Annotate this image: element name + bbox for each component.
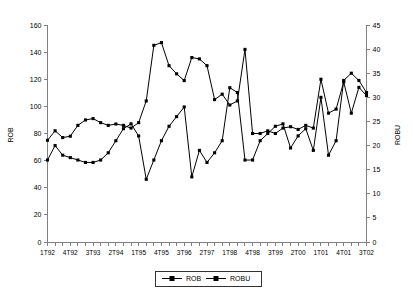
x-tick-label: 4T01 [336,249,351,256]
data-point-rob [84,118,87,121]
x-tick-label: 1T92 [40,249,55,256]
data-point-rob [297,128,300,131]
data-point-robu [266,132,269,135]
data-point-robu [160,139,163,142]
right-tick-label: 10 [373,190,381,197]
series-group [46,41,368,181]
right-axis-tick-group: 051015202530354045 [367,22,381,246]
data-point-rob [304,124,307,127]
data-point-robu [205,161,208,164]
data-point-rob [145,99,148,102]
data-point-robu [236,91,239,94]
data-point-robu [175,115,178,118]
left-tick-label: 140 [30,49,42,56]
data-point-rob [259,132,262,135]
data-point-rob [190,56,193,59]
data-point-robu [69,156,72,159]
left-tick-label: 60 [34,157,42,164]
left-tick-label: 40 [34,184,42,191]
data-point-robu [274,125,277,128]
data-point-robu [114,139,117,142]
data-point-robu [54,144,57,147]
right-tick-label: 20 [373,142,381,149]
data-point-robu [243,158,246,161]
data-point-rob [76,124,79,127]
data-point-rob [99,121,102,124]
data-point-robu [304,127,307,130]
data-point-robu [327,154,330,157]
data-point-rob [357,86,360,89]
data-point-rob [289,125,292,128]
data-point-rob [160,41,163,44]
data-point-robu [190,175,193,178]
right-tick-label: 40 [373,46,381,53]
legend-marker-robu [214,276,219,281]
series-line-rob [48,43,367,141]
data-point-rob [350,112,353,115]
left-axis-title: ROB [7,127,14,143]
data-point-robu [213,151,216,154]
x-tick-label: 4T98 [245,249,260,256]
data-point-rob [213,98,216,101]
x-axis-tick-group: 1T924T923T932T941T954T953T962T971T984T98… [40,242,374,256]
data-point-rob [46,139,49,142]
right-tick-label: 45 [373,22,381,29]
data-point-rob [183,79,186,82]
data-point-rob [69,135,72,138]
data-point-rob [152,44,155,47]
x-tick-label: 3T93 [86,249,101,256]
data-point-robu [335,139,338,142]
data-point-robu [84,161,87,164]
data-point-robu [251,158,254,161]
data-point-rob [228,103,231,106]
data-point-robu [228,86,231,89]
data-point-robu [350,72,353,75]
data-point-rob [137,121,140,124]
data-point-rob [167,64,170,67]
data-point-rob [198,57,201,60]
data-point-rob [221,93,224,96]
data-point-rob [130,127,133,130]
data-point-rob [205,64,208,67]
legend-label-robu: ROBU [230,275,250,282]
right-axis-title: ROBU [394,125,401,145]
left-tick-label: 20 [34,211,42,218]
data-point-robu [289,146,292,149]
data-point-rob [251,132,254,135]
data-point-robu [357,79,360,82]
x-tick-label: 2T97 [200,249,215,256]
data-point-rob [243,48,246,51]
left-tick-label: 0 [38,239,42,246]
right-tick-label: 35 [373,70,381,77]
right-tick-label: 30 [373,94,381,101]
left-tick-label: 120 [30,76,42,83]
legend-label-rob: ROB [186,275,202,282]
right-tick-label: 25 [373,118,381,125]
data-point-rob [61,136,64,139]
data-point-rob [107,124,110,127]
right-tick-label: 0 [373,239,377,246]
legend-marker-rob [170,276,175,281]
data-point-rob [114,122,117,125]
data-point-robu [61,154,64,157]
data-point-rob [335,108,338,111]
x-tick-label: 3T96 [177,249,192,256]
x-tick-label: 2T00 [291,249,306,256]
data-point-robu [312,149,315,152]
x-tick-label: 4T92 [63,249,78,256]
x-tick-label: 4T95 [154,249,169,256]
data-point-robu [281,122,284,125]
dual-axis-line-chart: 020406080100120140160 051015202530354045… [0,0,413,297]
x-tick-label: 1T98 [222,249,237,256]
data-point-rob [92,117,95,120]
x-tick-label: 1T95 [131,249,146,256]
data-point-robu [259,139,262,142]
data-point-robu [221,139,224,142]
data-point-robu [198,149,201,152]
right-tick-label: 5 [373,214,377,221]
data-point-robu [319,96,322,99]
data-point-rob [54,129,57,132]
data-point-robu [76,158,79,161]
x-tick-label: 2T94 [108,249,123,256]
left-axis-tick-group: 020406080100120140160 [30,22,48,246]
